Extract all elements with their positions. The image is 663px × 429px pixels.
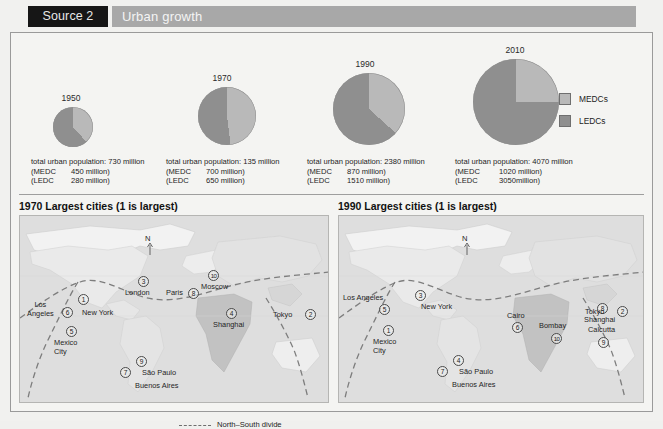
pie-year-label: 1990	[337, 59, 393, 69]
city-rank-calcutta: 9	[598, 337, 609, 348]
pie-chart-section: 1950 total urban population: 730 million…	[11, 33, 652, 191]
map-panel-1970: N LosAngeles 6 New York 1 London 3 Paris…	[19, 215, 329, 403]
total-population-label: total urban population: 135 million	[166, 157, 280, 167]
city-label-buenos-aires: Buenos Aires	[452, 381, 496, 390]
city-rank-sao-paulo: 9	[136, 356, 147, 367]
content-frame: 1950 total urban population: 730 million…	[10, 32, 653, 412]
city-rank-mexico-city: 5	[66, 326, 77, 337]
pie-year-label: 1970	[194, 73, 250, 83]
medc-value: 1020 million)	[499, 167, 542, 177]
city-rank-new-york: 1	[78, 294, 89, 305]
ledc-row: (LEDC650 million)	[166, 176, 280, 186]
city-label-shanghai: Shanghai	[213, 321, 244, 330]
total-population-label: total urban population: 2380 million	[307, 157, 425, 167]
medc-row: (MEDC1020 million)	[455, 167, 573, 177]
legend-label-medcs: MEDCs	[579, 93, 608, 105]
medc-row: (MEDC700 million)	[166, 167, 280, 177]
page-title: Urban growth	[112, 6, 636, 27]
city-rank-shanghai: 4	[226, 308, 237, 319]
pie-block-1990: 1990 total urban population: 2380 millio…	[307, 41, 457, 189]
city-label-mexico-city: MexicoCity	[373, 338, 396, 355]
total-population-label: total urban population: 730 million	[31, 157, 145, 167]
city-rank-buenos-aires: 7	[437, 366, 448, 377]
medc-label: (MEDC	[455, 167, 499, 177]
medc-value: 450 million)	[71, 167, 110, 177]
pie-chart-2010	[473, 59, 559, 145]
city-rank-tokyo: 2	[617, 306, 628, 317]
legend-swatch-ledcs-icon	[559, 115, 571, 127]
city-rank-cairo: 6	[512, 322, 523, 333]
city-rank-mexico-city: 1	[383, 325, 394, 336]
medc-row: (MEDC870 million)	[307, 167, 425, 177]
ledc-value: 650 million)	[206, 176, 245, 186]
medc-value: 870 million)	[347, 167, 386, 177]
north-arrow-icon	[146, 243, 154, 255]
pie-caption-1990: total urban population: 2380 million (ME…	[307, 157, 425, 186]
city-label-buenos-aires: Buenos Aires	[135, 382, 179, 391]
city-label-los-angeles: LosAngeles	[27, 301, 54, 318]
pie-chart-1950	[53, 107, 93, 147]
city-rank-london: 3	[138, 276, 149, 287]
city-label-new-york: New York	[421, 303, 452, 312]
medc-value: 700 million)	[206, 167, 245, 177]
pie-chart-1970	[198, 87, 256, 145]
legend-label-ledcs: LEDCs	[579, 115, 606, 127]
map-title-1970: 1970 Largest cities (1 is largest)	[19, 200, 178, 212]
pie-year-label: 2010	[487, 45, 543, 55]
ledc-value: 1510 million)	[347, 176, 390, 186]
north-south-divide-label: North–South divide	[217, 420, 282, 429]
city-label-moscow: Moscow	[201, 283, 228, 292]
pie-block-1950: 1950 total urban population: 730 million…	[31, 41, 149, 189]
city-rank-los-angeles: 6	[62, 307, 73, 318]
pie-block-1970: 1970 total urban population: 135 million…	[166, 41, 306, 189]
north-arrow-icon	[463, 243, 471, 255]
pie-caption-1970: total urban population: 135 million (MED…	[166, 157, 280, 186]
city-label-bombay: Bombay	[539, 322, 566, 331]
pie-caption-2010: total urban population: 4070 million (ME…	[455, 157, 573, 186]
north-marker: N	[145, 234, 150, 243]
ledc-value: 280 million)	[71, 176, 110, 186]
city-label-tokyo: Tokyo	[273, 311, 292, 320]
medc-label: (MEDC	[166, 167, 206, 177]
pie-year-label: 1950	[43, 93, 99, 103]
city-label-mexico-city: MexicoCity	[54, 339, 77, 356]
city-label-cairo: Cairo	[507, 312, 525, 321]
ledc-row: (LEDC280 million)	[31, 176, 145, 186]
city-label-sao-paulo: São Paulo	[142, 369, 176, 378]
map-panel-1990: N Los Angeles 5 New York 3 MexicoCity 1 …	[338, 215, 644, 403]
section-divider	[19, 194, 644, 195]
city-label-sao-paulo: São Paulo	[459, 368, 493, 377]
map-title-1990: 1990 Largest cities (1 is largest)	[338, 200, 497, 212]
ledc-label: (LEDC	[166, 176, 206, 186]
ledc-value: 3050million)	[499, 176, 540, 186]
city-rank-los-angeles: 5	[379, 304, 390, 315]
city-rank-tokyo: 2	[305, 309, 316, 320]
dashed-line-icon	[179, 425, 211, 426]
pie-chart-1990	[333, 73, 405, 145]
ledc-label: (LEDC	[31, 176, 71, 186]
ledc-label: (LEDC	[455, 176, 499, 186]
figure-header: Source 2 Urban growth	[28, 6, 636, 27]
city-rank-moscow: 10	[208, 270, 219, 281]
city-rank-buenos-aires: 7	[120, 367, 131, 378]
city-label-shanghai: Shanghai	[584, 316, 615, 325]
city-rank-sao-paulo: 4	[453, 355, 464, 366]
city-label-los-angeles: Los Angeles	[343, 294, 383, 303]
city-rank-new-york: 3	[415, 290, 426, 301]
city-label-calcutta: Calcutta	[588, 326, 615, 335]
north-marker: N	[462, 234, 467, 243]
medc-row: (MEDC450 million)	[31, 167, 145, 177]
city-label-paris: Paris	[166, 289, 183, 298]
source-tag: Source 2	[28, 6, 108, 27]
medc-label: (MEDC	[307, 167, 347, 177]
city-label-new-york: New York	[82, 309, 113, 318]
ledc-label: (LEDC	[307, 176, 347, 186]
city-label-tokyo-visible: Tokyo	[585, 308, 604, 317]
ledc-row: (LEDC1510 million)	[307, 176, 425, 186]
legend-swatch-medcs-icon	[559, 93, 571, 105]
medc-label: (MEDC	[31, 167, 71, 177]
total-population-label: total urban population: 4070 million	[455, 157, 573, 167]
city-label-london: London	[125, 289, 150, 298]
city-rank-bombay: 10	[551, 333, 562, 344]
